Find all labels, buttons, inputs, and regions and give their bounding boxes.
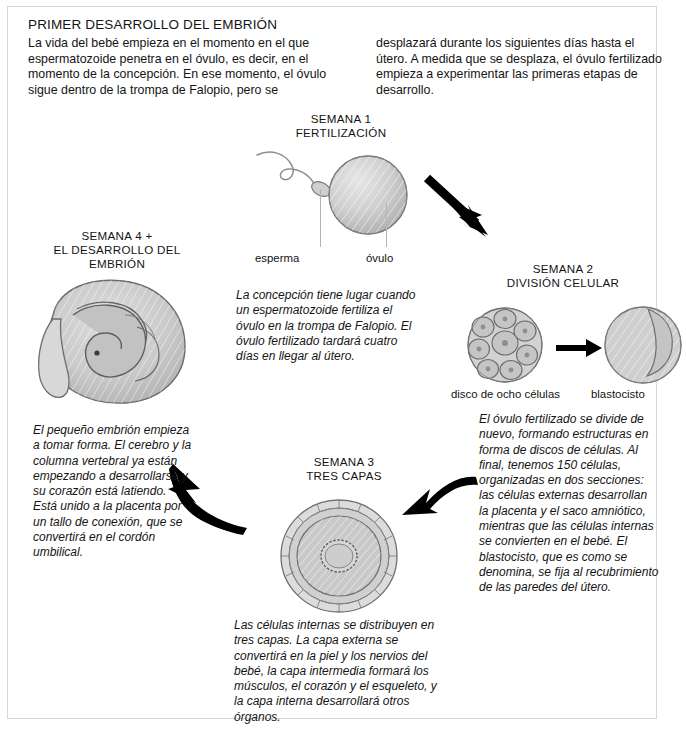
week1-caption: La concepción tiene lugar cuando un espe…	[236, 288, 422, 364]
intro-paragraph-right: desplazará durante los siguientes días h…	[376, 36, 666, 98]
week2-heading-line2: DIVISIÓN CELULAR	[468, 276, 658, 290]
week4-heading-line3: EMBRIÓN	[22, 257, 212, 271]
label-sperm: esperma	[255, 252, 299, 264]
week2-heading-line1: SEMANA 2	[468, 262, 658, 276]
page-frame: PRIMER DESARROLLO DEL EMBRIÓN La vida de…	[7, 6, 657, 719]
arrow-week1-to-week2	[426, 175, 506, 251]
week4-heading-line1: SEMANA 4 +	[22, 229, 212, 243]
week1-heading: SEMANA 1 FERTILIZACIÓN	[261, 112, 421, 140]
week2-eight-cell-disc-illustration	[463, 305, 547, 385]
label-eight-cell-disc: disco de ocho células	[451, 388, 560, 400]
week4-heading-line2: EL DESARROLLO DEL	[22, 243, 212, 257]
week1-heading-line2: FERTILIZACIÓN	[261, 126, 421, 140]
week4-caption: El pequeño embrión empieza a tomar forma…	[33, 423, 193, 561]
week2-blastocyst-illustration	[600, 304, 686, 386]
page-title: PRIMER DESARROLLO DEL EMBRIÓN	[28, 17, 277, 32]
intro-paragraph-left: La vida del bebé empieza en el momento e…	[28, 36, 328, 98]
week3-heading-line1: SEMANA 3	[264, 455, 424, 469]
embryo-eye	[94, 350, 99, 355]
label-blastocyst: blastocisto	[591, 388, 645, 400]
week2-heading: SEMANA 2 DIVISIÓN CELULAR	[468, 262, 658, 290]
week4-embryo-illustration	[25, 275, 197, 410]
week1-heading-line1: SEMANA 1	[261, 112, 421, 126]
week3-three-layers-illustration	[271, 496, 407, 616]
week1-fertilization-illustration	[251, 142, 441, 247]
week3-caption: Las células internas se distribuyen en t…	[234, 618, 440, 725]
egg-leader-line	[386, 203, 387, 247]
week4-heading: SEMANA 4 + EL DESARROLLO DEL EMBRIÓN	[22, 229, 212, 271]
week3-heading-line2: TRES CAPAS	[264, 469, 424, 483]
week3-heading: SEMANA 3 TRES CAPAS	[264, 455, 424, 483]
arrow-disc-to-blastocyst	[556, 337, 604, 359]
sperm-tail	[257, 152, 315, 185]
label-egg: óvulo	[366, 252, 393, 264]
sperm-leader-line	[320, 189, 321, 247]
week2-caption: El óvulo fertilizado se divide de nuevo,…	[479, 412, 659, 596]
